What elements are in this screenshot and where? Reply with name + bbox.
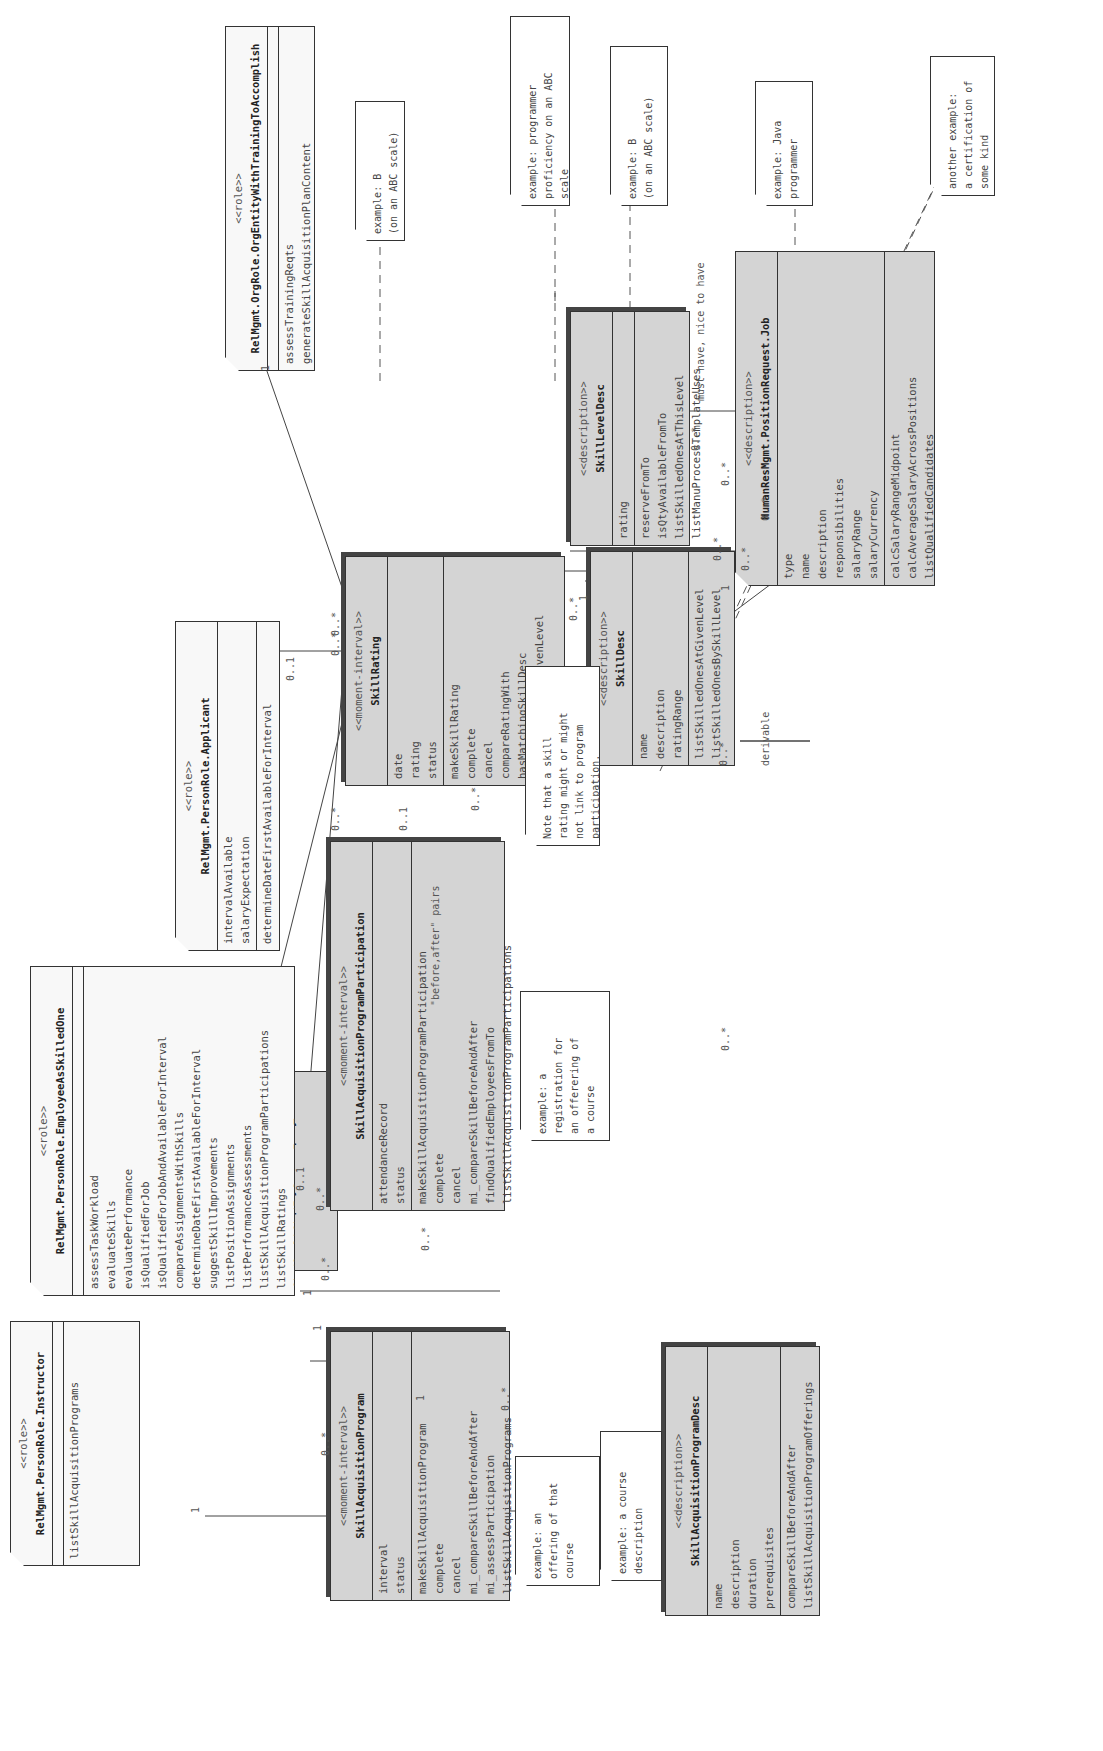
note-line: proficiency on an ABC (541, 23, 557, 199)
note-line: Note that a skill (540, 673, 556, 839)
operation: listSkillAcquisitionProgramOfferings (800, 1353, 817, 1609)
operation: findQualifiedEmployeesFromTo (482, 848, 499, 1204)
class-name: SkillLevelDesc (592, 316, 609, 541)
operation: cancel (448, 1338, 465, 1594)
class-name: RelMgmt.PersonRole.Applicant (197, 626, 214, 946)
multiplicity: 0..* (315, 1187, 326, 1211)
operation: makeSkillAcquisitionProgram (414, 1338, 431, 1594)
attribute: attendanceRecord (375, 848, 392, 1204)
operations-section: assessTrainingReqts generateSkillAcquisi… (279, 27, 317, 370)
class-employee-as-skilled-one[interactable]: <<role>> RelMgmt.PersonRole.EmployeeAsSk… (30, 966, 295, 1296)
operation: isQtyAvailableFromTo (654, 318, 671, 539)
note-line: a course (583, 998, 599, 1134)
multiplicity: 0..1 (285, 657, 296, 681)
note-rating-participation: Note that a skill rating might or might … (525, 666, 600, 846)
attribute: description (814, 258, 831, 579)
operation: cancel (480, 563, 497, 779)
multiplicity: 0..* (720, 1027, 731, 1051)
attribute: salaryExpectation (237, 628, 254, 944)
stereotype: <<description>> (740, 256, 757, 581)
operations-section: listSkilledOnesAtGivenLevel listSkilledO… (689, 552, 727, 765)
operation: makeSkillAcquisitionProgramParticipation (414, 848, 431, 1204)
class-skill-level-desc[interactable]: <<description>> SkillLevelDesc rating re… (570, 311, 690, 546)
multiplicity: 1 (720, 585, 731, 591)
class-name: SkillAcquisitionProgram (352, 1336, 369, 1596)
operation: isQualifiedForJobAndAvailableForInterval (154, 973, 171, 1289)
attribute: rating (615, 318, 632, 539)
operations-section: listSkillAcquisitionPrograms (64, 1322, 85, 1565)
operation: assessTrainingReqts (281, 33, 298, 364)
class-name: SkillAcquisitionProgramParticipation (352, 846, 369, 1206)
note-line: rating might or might (556, 673, 572, 839)
note-rating-b: example: B (on an ABC scale) (355, 101, 405, 241)
class-name: RelMgmt.PersonRole.Instructor (32, 1326, 49, 1561)
class-skill-acquisition-program[interactable]: <<moment-interval>> SkillAcquisitionProg… (330, 1331, 510, 1601)
operation: compareAssignmentsWithSkills (171, 973, 188, 1289)
multiplicity: 1 (302, 1290, 313, 1296)
attributes-section: rating (613, 312, 635, 545)
class-applicant[interactable]: <<role>> RelMgmt.PersonRole.Applicant in… (175, 621, 280, 951)
operation: generateSkillAcquisitionPlanContent (298, 33, 315, 364)
attribute: type (780, 258, 797, 579)
note-line: another example: (945, 63, 961, 189)
operation: listSkillAcquisitionPrograms (66, 1328, 83, 1559)
class-job[interactable]: <<description>> HumanResMgmt.PositionReq… (735, 251, 935, 586)
note-line: example: Java (770, 88, 786, 199)
note-line: example: B (625, 53, 641, 199)
stereotype: <<role>> (35, 971, 52, 1291)
operation: assessTaskWorkload (86, 973, 103, 1289)
class-org-entity-with-training[interactable]: <<role>> RelMgmt.OrgRole.OrgEntityWithTr… (225, 26, 315, 371)
class-name: RelMgmt.PersonRole.EmployeeAsSkilledOne (52, 971, 69, 1291)
operation: mi_assessParticipation (482, 1338, 499, 1594)
note-java: example: Java programmer (755, 81, 813, 206)
multiplicity: 0..* (712, 537, 723, 561)
note-line: not link to program (572, 673, 588, 839)
operation: listSkilledOnesAtThisLevel (671, 318, 688, 539)
attribute: duration (744, 1353, 761, 1609)
attribute: ratingRange (669, 558, 686, 759)
class-skill-acquisition-program-desc[interactable]: <<description>> SkillAcquisitionProgramD… (665, 1346, 820, 1616)
operation: isQualifiedForJob (137, 973, 154, 1289)
stereotype: <<description>> (670, 1351, 687, 1611)
association-label: "before,after" pairs (430, 886, 441, 1006)
attribute: name (710, 1353, 727, 1609)
note-proficiency: example: programmer proficiency on an AB… (510, 16, 570, 206)
attribute: description (652, 558, 669, 759)
class-skill-desc[interactable]: <<description>> SkillDesc name descripti… (590, 551, 735, 766)
operation: complete (431, 1338, 448, 1594)
class-instructor[interactable]: <<role>> RelMgmt.PersonRole.Instructor l… (10, 1321, 140, 1566)
attribute: status (392, 848, 409, 1204)
class-name: RelMgmt.OrgRole.OrgEntityWithTrainingToA… (247, 31, 264, 366)
note-line: a certification of (961, 63, 977, 189)
class-name: SkillAcquisitionProgramDesc (687, 1351, 704, 1611)
uml-class-diagram: <<role>> RelMgmt.PersonRole.Instructor l… (0, 0, 1103, 1751)
attributes-section: name description ratingRange (633, 552, 689, 765)
attribute: salaryRange (848, 258, 865, 579)
note-offering: example: an offering of that course (515, 1456, 600, 1586)
multiplicity: 0..* (330, 612, 341, 636)
multiplicity: 0..* (500, 1387, 511, 1411)
attribute: salaryCurrency (865, 258, 882, 579)
attributes-section: intervalAvailable salaryExpectation (218, 622, 257, 950)
operation: listSkillAcquisitionProgramParticipation… (256, 973, 273, 1289)
multiplicity: 0..* (690, 427, 701, 451)
operation: mi_compareSkillBeforeAndAfter (465, 848, 482, 1204)
multiplicity: 1 (312, 1325, 323, 1331)
operation: listPerformanceAssessments (239, 973, 256, 1289)
note-line: some kind (977, 63, 993, 189)
note-line: example: B (370, 108, 386, 234)
operation: determineDateFirstAvailableForInterval (259, 628, 276, 944)
operation: listSkillAcquisitionPrograms (499, 1338, 516, 1594)
note-line: example: a course (615, 1438, 631, 1574)
multiplicity: 0..* (320, 1432, 331, 1456)
class-skill-acquisition-program-participation[interactable]: <<moment-interval>> SkillAcquisitionProg… (330, 841, 505, 1211)
multiplicity: 0..* (740, 547, 751, 571)
note-certification: another example: a certification of some… (930, 56, 995, 196)
class-name: HumanResMgmt.PositionRequest.Job (757, 256, 774, 581)
attribute: description (727, 1353, 744, 1609)
attribute: interval (375, 1338, 392, 1594)
attribute: intervalAvailable (220, 628, 237, 944)
operations-section: assessTaskWorkload evaluateSkills evalua… (84, 967, 309, 1295)
multiplicity: 0..1 (398, 807, 409, 831)
attributes-section (73, 967, 84, 1295)
